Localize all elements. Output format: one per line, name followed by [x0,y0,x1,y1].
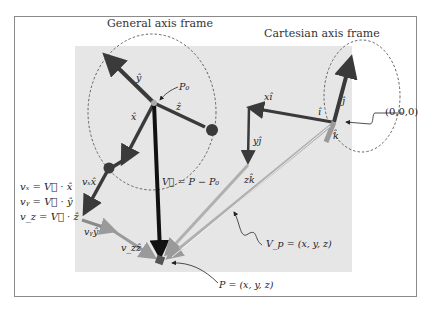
cartesian-frame-title: Cartesian axis frame [264,27,380,40]
vz-equation: v_z = V⃗ · ẑ [20,209,79,224]
z-k-label: zk̂ [244,174,255,185]
vx-x-hat-label: vₓx̂ [82,176,96,187]
k-hat-label: k̂ [333,130,339,141]
p-equation-label: P = (x, y, z) [219,279,273,290]
z-hat-label: ẑ [176,101,181,112]
x-hat-label: x̂ [131,111,136,122]
v-equation-label: V⃗ = P − P₀ [162,176,219,187]
vx-equation: vₓ = V⃗ · x̂ [20,179,72,194]
p0-point [151,100,157,106]
vy-equation: vᵧ = V⃗ · ŷ [20,194,73,209]
j-hat-label: ĵ [342,95,345,106]
vz-z-hat-label: v_zẑ [121,242,141,253]
y-j-arrow [248,108,249,160]
p0-label: P₀ [179,81,189,92]
origin-label: (0,0,0) [385,106,418,117]
y-j-label: yĵ [253,135,261,146]
vp-equation-label: V_p = (x, y, z) [266,238,332,249]
i-hat-label: î [318,106,321,117]
diagram-canvas [0,0,434,315]
y-hat-label: ŷ [136,72,141,83]
x-i-label: xî [264,91,272,102]
vy-y-hat-label: vᵧŷ [84,226,98,237]
z-hat-ball [206,124,218,136]
general-frame-title: General axis frame [107,17,213,30]
